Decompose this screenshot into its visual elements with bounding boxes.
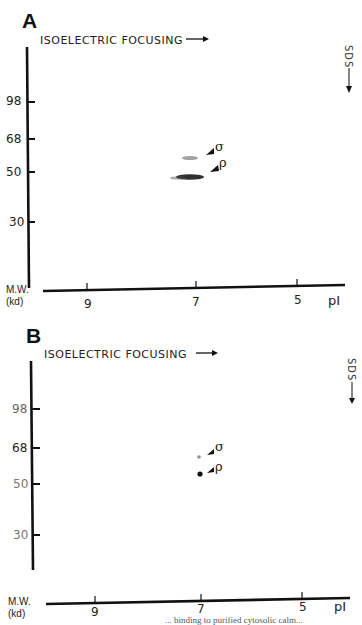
y-tick-50: 50 — [13, 478, 28, 490]
y-tick-98: 98 — [12, 403, 27, 415]
sigma-label: σ — [215, 440, 224, 453]
rho-label: ρ — [215, 460, 223, 473]
sds-label: SDS — [346, 358, 357, 381]
mw-label: M.W. (kd) — [8, 596, 31, 619]
pi-label: pI — [334, 600, 346, 613]
x-tick-9: 9 — [91, 606, 99, 618]
x-tick-7: 7 — [197, 603, 205, 615]
x-tick-5: 5 — [299, 601, 307, 613]
y-tick-30: 30 — [13, 529, 28, 541]
caption-fragment: ... binding to purified cytosolic calm..… — [165, 615, 303, 625]
y-tick-68: 68 — [12, 442, 27, 454]
